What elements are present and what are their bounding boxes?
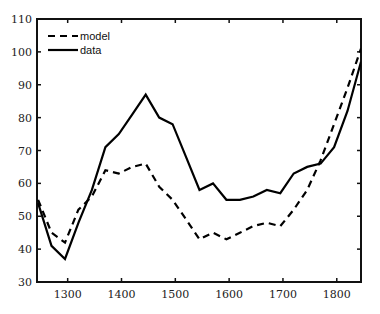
x-tick-label: 1300 — [54, 288, 82, 301]
x-tick-label: 1400 — [107, 288, 135, 301]
y-tick-label: 30 — [18, 276, 32, 289]
line-chart: 130014001500160017001800 304050607080901… — [0, 0, 380, 314]
axes-frame — [37, 19, 361, 282]
legend-label-model: model — [80, 30, 110, 42]
x-tick-label: 1700 — [269, 288, 297, 301]
y-tick-label: 80 — [18, 112, 32, 125]
legend-label-data: data — [80, 44, 102, 56]
x-tick-label: 1600 — [215, 288, 243, 301]
y-tick-label: 110 — [11, 13, 32, 26]
y-tick-label: 50 — [18, 210, 32, 223]
plot-area — [37, 19, 361, 282]
x-tick-label: 1800 — [323, 288, 351, 301]
y-tick-label: 100 — [11, 46, 32, 59]
y-tick-label: 70 — [18, 145, 32, 158]
x-tick-label: 1500 — [161, 288, 189, 301]
y-tick-label: 90 — [18, 79, 32, 92]
y-tick-label: 60 — [18, 177, 32, 190]
y-tick-label: 40 — [18, 243, 32, 256]
